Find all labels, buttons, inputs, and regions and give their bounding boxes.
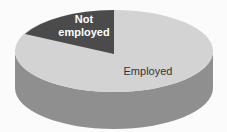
label-employed: Employed bbox=[124, 65, 173, 77]
label-not-employed-line2: employed bbox=[58, 26, 109, 38]
label-not-employed-line1: Not bbox=[75, 13, 94, 25]
pie-chart: Not employed Employed bbox=[0, 0, 227, 132]
